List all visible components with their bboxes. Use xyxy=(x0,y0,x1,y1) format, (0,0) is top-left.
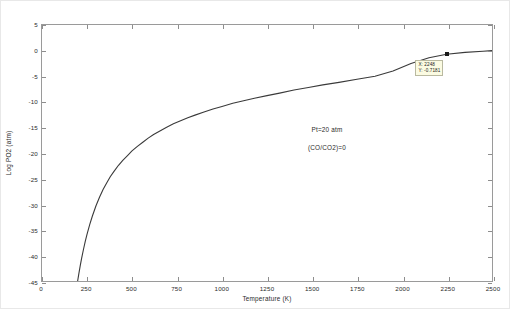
datatip-marker[interactable] xyxy=(445,52,449,56)
y-tick-label: -40 xyxy=(28,253,38,260)
x-tick-label: 500 xyxy=(126,285,137,292)
x-tick xyxy=(449,25,450,29)
y-tick xyxy=(42,154,46,155)
y-tick xyxy=(42,25,46,26)
x-tick xyxy=(494,277,495,281)
x-tick-label: 1250 xyxy=(260,285,275,292)
x-tick xyxy=(449,277,450,281)
y-tick xyxy=(42,102,46,103)
y-tick xyxy=(42,231,46,232)
x-tick-label: 2250 xyxy=(441,285,456,292)
y-tick xyxy=(488,231,492,232)
y-tick xyxy=(488,257,492,258)
x-tick xyxy=(87,25,88,29)
x-tick xyxy=(42,277,43,281)
y-tick xyxy=(488,102,492,103)
y-axis-title: Log PO2 (atm) xyxy=(5,131,12,176)
y-tick-label: 0 xyxy=(34,46,38,53)
x-tick xyxy=(404,277,405,281)
x-tick xyxy=(132,277,133,281)
y-tick-label: -5 xyxy=(32,72,38,79)
datatip-box[interactable]: X: 2248 Y: -0.7181 xyxy=(415,60,443,76)
x-tick-label: 2500 xyxy=(486,285,501,292)
x-tick xyxy=(223,277,224,281)
x-tick xyxy=(358,25,359,29)
y-tick xyxy=(42,257,46,258)
x-tick-label: 1500 xyxy=(305,285,320,292)
y-tick xyxy=(42,206,46,207)
y-tick xyxy=(42,51,46,52)
y-tick-label: -20 xyxy=(28,150,38,157)
y-tick xyxy=(42,77,46,78)
x-tick-label: 0 xyxy=(39,285,43,292)
y-tick-label: 5 xyxy=(34,21,38,28)
x-tick-label: 750 xyxy=(171,285,182,292)
y-tick-label: -15 xyxy=(28,124,38,131)
figure-canvas: Log PO2 (atm) 02505007501000125015001750… xyxy=(0,0,510,309)
y-tick xyxy=(488,206,492,207)
x-tick-label: 1750 xyxy=(350,285,365,292)
x-tick xyxy=(268,277,269,281)
x-tick xyxy=(87,277,88,281)
x-tick xyxy=(268,25,269,29)
y-tick xyxy=(488,283,492,284)
x-tick xyxy=(178,25,179,29)
x-tick-label: 1000 xyxy=(215,285,230,292)
x-tick xyxy=(178,277,179,281)
y-tick-label: -30 xyxy=(28,201,38,208)
y-tick xyxy=(488,128,492,129)
y-tick-label: -35 xyxy=(28,227,38,234)
annotation-gas-ratio: (CO/CO2)=0 xyxy=(308,144,346,151)
x-axis-title: Temperature (K) xyxy=(242,295,291,302)
y-tick xyxy=(42,283,46,284)
y-tick-label: -25 xyxy=(28,175,38,182)
x-tick xyxy=(313,25,314,29)
y-tick-label: -45 xyxy=(28,279,38,286)
x-tick xyxy=(132,25,133,29)
x-tick xyxy=(494,25,495,29)
x-tick-label: 250 xyxy=(81,285,92,292)
annotation-pressure: Pt=20 atm xyxy=(311,126,342,133)
datatip-y-value: Y: -0.7181 xyxy=(418,68,440,74)
x-tick xyxy=(358,277,359,281)
x-tick xyxy=(404,25,405,29)
x-tick-label: 2000 xyxy=(395,285,410,292)
x-tick xyxy=(223,25,224,29)
x-tick xyxy=(313,277,314,281)
y-tick xyxy=(42,128,46,129)
y-tick xyxy=(488,25,492,26)
y-tick-label: -10 xyxy=(28,98,38,105)
y-tick xyxy=(488,180,492,181)
y-tick xyxy=(488,51,492,52)
y-tick xyxy=(42,180,46,181)
y-tick xyxy=(488,77,492,78)
y-tick xyxy=(488,154,492,155)
